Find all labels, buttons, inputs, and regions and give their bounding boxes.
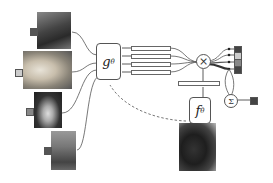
g-subscript: θ [111, 58, 115, 66]
multiply-icon: × [199, 55, 208, 68]
support-label-1 [30, 28, 38, 36]
support-label-2 [15, 69, 23, 77]
support-label-4 [44, 147, 52, 155]
final-output-label [250, 97, 258, 105]
g-theta-module: gθ [96, 43, 121, 80]
sum-node: Σ [224, 94, 238, 108]
sum-icon: Σ [228, 97, 234, 106]
support-embedding-4 [131, 70, 171, 75]
support-image-dog-3 [34, 92, 62, 128]
g-symbol: g [102, 54, 110, 69]
support-embedding-1 [131, 46, 171, 51]
support-image-dog-1 [37, 12, 71, 49]
f-subscript: θ [200, 107, 204, 115]
support-image-dog-4 [51, 131, 76, 170]
support-image-dog-2 [23, 51, 72, 89]
support-embedding-3 [131, 62, 171, 67]
support-label-3 [26, 108, 34, 116]
query-image-dog [179, 123, 216, 171]
f-theta-module: fθ [189, 97, 211, 124]
query-embedding [178, 81, 220, 86]
support-embedding-2 [131, 54, 171, 59]
multiply-node: × [196, 54, 211, 69]
output-label-4 [234, 66, 242, 74]
